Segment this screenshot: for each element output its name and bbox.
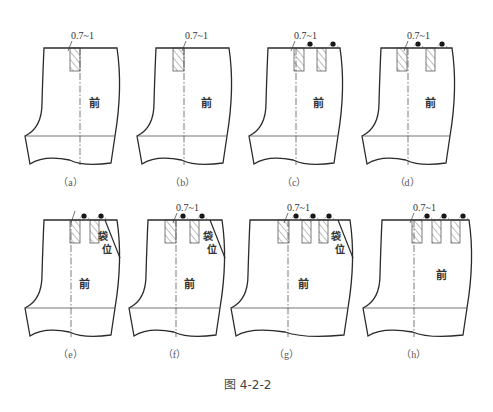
panel-g: 袋位0.7~1前（g） <box>231 202 353 360</box>
panel-d: 0.7~1前（d） <box>362 30 455 188</box>
panel-h: 0.7~1前（h） <box>363 202 472 360</box>
panel-caption: （e） <box>58 349 82 360</box>
figure-caption: 图 4-2-2 <box>224 378 271 392</box>
front-label: 前 <box>89 96 100 110</box>
pleat-hatched <box>302 220 311 243</box>
dimension-label: 0.7~1 <box>185 30 208 41</box>
pleat-hatched <box>317 48 326 71</box>
front-label: 前 <box>298 277 309 291</box>
dimension-label: 0.7~1 <box>294 30 317 41</box>
pleat-hatched <box>165 220 176 243</box>
dimension-label: 0.7~1 <box>407 30 430 41</box>
pleat-hatched <box>278 220 289 243</box>
panel-caption: （g） <box>274 349 299 360</box>
panel-c: 0.7~1前（c） <box>249 30 343 188</box>
pleat-hatched <box>432 220 441 243</box>
pleat-hatched <box>190 220 199 243</box>
pocket-label: 位 <box>102 243 112 255</box>
front-label: 前 <box>184 277 195 291</box>
panel-caption: （d） <box>395 177 420 188</box>
dimension-label: 0.7~1 <box>287 202 310 213</box>
pocket-label: 位 <box>335 243 345 255</box>
pleat-hatched <box>294 48 304 71</box>
pleat-hatched <box>451 220 460 243</box>
pocket-label: 位 <box>207 243 217 255</box>
pleat-hatched <box>412 220 422 243</box>
dimension-label: 0.7~1 <box>71 30 94 41</box>
dimension-label: 0.7~1 <box>413 202 436 213</box>
pleat-hatched <box>426 48 435 71</box>
panel-caption: （f） <box>163 349 186 360</box>
panel-caption: （b） <box>170 177 195 188</box>
panel-e: 袋位前（e） <box>25 211 120 360</box>
pocket-label: 袋 <box>330 230 342 242</box>
pleat-hatched <box>70 48 80 71</box>
front-label: 前 <box>201 96 212 110</box>
pocket-label: 袋 <box>202 230 214 242</box>
dimension-label: 0.7~1 <box>176 202 199 213</box>
panel-b: 0.7~1前（b） <box>137 30 232 188</box>
front-label: 前 <box>436 268 447 282</box>
panel-f: 袋位0.7~1前（f） <box>129 202 225 360</box>
pleat-hatched <box>173 48 184 71</box>
pleat-hatched <box>319 220 328 243</box>
front-label: 前 <box>425 96 436 110</box>
pleat-hatched <box>397 48 407 71</box>
pleat-hatched <box>70 220 80 243</box>
panel-caption: （a） <box>58 177 82 188</box>
pattern-diagram: 0.7~1前（a）0.7~1前（b）0.7~1前（c）0.7~1前（d）袋位前（… <box>0 0 493 412</box>
front-label: 前 <box>79 277 90 291</box>
front-label: 前 <box>313 96 324 110</box>
pocket-label: 袋 <box>97 230 109 242</box>
panel-caption: （c） <box>282 177 306 188</box>
panel-caption: （h） <box>401 349 426 360</box>
panel-a: 0.7~1前（a） <box>25 30 120 188</box>
